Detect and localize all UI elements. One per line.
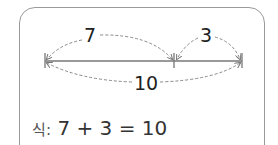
part2-label: 3 [200, 26, 212, 45]
equation-expression: 7 + 3 = 10 [57, 116, 167, 140]
equation-prefix: 식: [32, 121, 51, 139]
equation: 식: 7 + 3 = 10 [32, 116, 167, 140]
part1-label: 7 [84, 26, 96, 45]
total-label: 10 [134, 74, 158, 93]
